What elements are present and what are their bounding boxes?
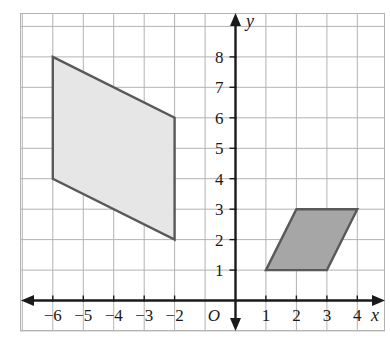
origin-label: O xyxy=(208,306,220,325)
y-tick-label: 2 xyxy=(215,231,224,250)
x-tick-label: −3 xyxy=(135,306,153,325)
y-tick-label: 3 xyxy=(215,200,224,219)
x-tick-label: −6 xyxy=(44,306,62,325)
x-tick-label: −2 xyxy=(166,306,184,325)
y-tick-label: 7 xyxy=(215,78,224,97)
x-tick-label: −5 xyxy=(74,306,92,325)
y-tick-label: 8 xyxy=(215,48,224,67)
x-tick-label: 2 xyxy=(292,306,301,325)
x-tick-label: 4 xyxy=(353,306,362,325)
graph-canvas: −6−5−4−3−21234 12345678 O x y xyxy=(0,0,390,341)
coordinate-plane-figure: −6−5−4−3−21234 12345678 O x y xyxy=(0,0,390,341)
x-tick-label: 3 xyxy=(323,306,332,325)
y-tick-label: 4 xyxy=(215,170,224,189)
x-tick-label: 1 xyxy=(262,306,271,325)
x-axis-label: x xyxy=(370,305,379,325)
y-axis-label: y xyxy=(244,11,254,31)
x-tick-label: −4 xyxy=(105,306,124,325)
y-tick-label: 6 xyxy=(215,109,224,128)
y-tick-label: 5 xyxy=(215,139,224,158)
y-tick-label: 1 xyxy=(215,261,224,280)
